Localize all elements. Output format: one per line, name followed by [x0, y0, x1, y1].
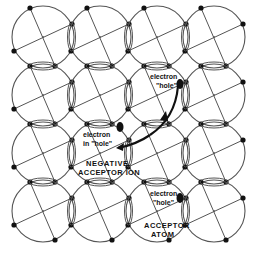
atom: [11, 5, 74, 68]
atom: [182, 63, 245, 126]
nucleus-dot: [42, 152, 44, 154]
electron-dot: [198, 5, 203, 10]
label-hole1-line1: electron: [150, 73, 177, 80]
label-electron-in-hole-line2: in "hole": [83, 140, 112, 147]
nucleus-dot: [213, 36, 215, 38]
nucleus-dot: [99, 94, 101, 96]
electron-dot: [223, 237, 228, 242]
nucleus-dot: [99, 36, 101, 38]
nucleus-dot: [99, 210, 101, 212]
label-hole1-line2: "hole": [156, 82, 177, 89]
atom: [11, 63, 74, 126]
nucleus-dot: [156, 94, 158, 96]
electron-dot: [11, 164, 16, 169]
electron-dot: [11, 222, 16, 227]
atoms-group: [11, 5, 245, 242]
lattice-diagram: electron "hole" electron in "hole" NEGAT…: [0, 0, 257, 255]
electron-dot: [109, 237, 114, 242]
atom: [182, 5, 245, 68]
electron-dot: [141, 5, 146, 10]
label-acceptor-ion: ACCEPTOR ION: [78, 168, 140, 177]
atom: [68, 179, 131, 242]
nucleus-dot: [213, 210, 215, 212]
atom: [182, 179, 245, 242]
lattice-svg: electron "hole" electron in "hole" NEGAT…: [0, 0, 257, 255]
atom: [11, 121, 74, 184]
hole-blob-upper: [177, 79, 184, 89]
atom: [11, 179, 74, 242]
nucleus-dot: [213, 94, 215, 96]
atom: [125, 5, 188, 68]
atom: [68, 5, 131, 68]
hole-blob-middle: [117, 122, 124, 132]
electron-dot: [240, 137, 245, 142]
nucleus-dot: [42, 210, 44, 212]
electron-dot: [84, 5, 89, 10]
label-hole2-line2: "hole": [153, 199, 174, 206]
electron-dot: [27, 5, 32, 10]
electron-dot: [52, 237, 57, 242]
nucleus-dot: [42, 36, 44, 38]
atom: [182, 121, 245, 184]
hole-blob-lower: [177, 193, 184, 203]
electron-dot: [240, 79, 245, 84]
nucleus-dot: [156, 36, 158, 38]
nucleus-dot: [156, 152, 158, 154]
nucleus-dot: [213, 152, 215, 154]
electron-dot: [240, 195, 245, 200]
label-negative: NEGATIVE: [86, 159, 129, 168]
electron-dot: [11, 48, 16, 53]
nucleus-dot: [42, 94, 44, 96]
atom: [68, 63, 131, 126]
label-hole2-line1: electron: [150, 190, 177, 197]
label-electron-in-hole-line1: electron: [83, 131, 110, 138]
nucleus-dot: [99, 152, 101, 154]
label-acceptor: ACCEPTOR: [144, 221, 190, 230]
nucleus-dot: [156, 210, 158, 212]
label-atom: ATOM: [151, 230, 174, 239]
electron-dot: [240, 21, 245, 26]
electron-dot: [11, 106, 16, 111]
